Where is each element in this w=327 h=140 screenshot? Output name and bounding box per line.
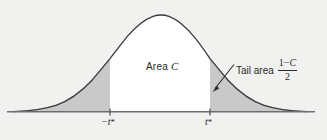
tail-fraction-denominator: 2 bbox=[285, 71, 290, 83]
tick-negative-sign: − bbox=[101, 116, 108, 127]
tail-area-annotation: Tail area 1−C 2 bbox=[236, 59, 297, 83]
area-c-symbol: C bbox=[171, 60, 179, 72]
tail-area-fraction: 1−C 2 bbox=[278, 58, 297, 82]
tail-fraction-symbol-c: C bbox=[289, 57, 296, 68]
tail-fraction-numerator: 1−C bbox=[278, 58, 297, 71]
area-c-prefix: Area bbox=[146, 61, 171, 72]
t-distribution-diagram: Area C Tail area 1−C 2 −t* t* bbox=[0, 0, 327, 140]
area-c-label: Area C bbox=[146, 61, 178, 72]
x-tick-label-negative-t-star: −t* bbox=[101, 117, 115, 127]
tick-negative-star: * bbox=[111, 117, 116, 127]
tail-area-text: Tail area bbox=[236, 66, 274, 76]
tick-positive-star: * bbox=[208, 117, 213, 127]
x-tick-label-positive-t-star: t* bbox=[205, 117, 212, 127]
